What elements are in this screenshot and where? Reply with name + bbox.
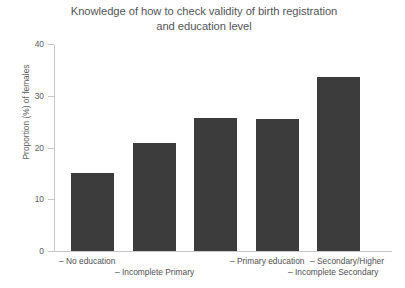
x-axis-line <box>54 251 392 252</box>
x-axis-category-label: – Incomplete Secondary <box>288 267 378 277</box>
chart-title-line-2: and education level <box>30 19 378 34</box>
bar <box>317 77 360 251</box>
plot-area <box>54 44 392 251</box>
x-axis-category-label: – Incomplete Primary <box>115 267 194 277</box>
x-axis-category-label: – Primary education <box>230 256 304 266</box>
bar <box>133 143 176 251</box>
bar <box>194 118 237 252</box>
y-axis-tick <box>48 251 54 252</box>
y-axis-tick-label: 0 <box>4 246 44 256</box>
y-axis-tick-label: 30 <box>4 91 44 101</box>
chart-title-line-1: Knowledge of how to check validity of bi… <box>30 4 378 19</box>
y-axis-tick-label: 10 <box>4 194 44 204</box>
y-axis-label: Proportion (%) of females <box>21 42 31 182</box>
bar <box>71 173 114 251</box>
x-axis-category-label: – No education <box>59 256 115 266</box>
x-axis-category-label: – Secondary/Higher <box>310 256 384 266</box>
bar-chart: Knowledge of how to check validity of bi… <box>0 0 405 288</box>
y-axis-tick-label: 20 <box>4 143 44 153</box>
chart-title: Knowledge of how to check validity of bi… <box>30 4 378 33</box>
y-axis-tick-label: 40 <box>4 39 44 49</box>
bar <box>256 119 299 251</box>
